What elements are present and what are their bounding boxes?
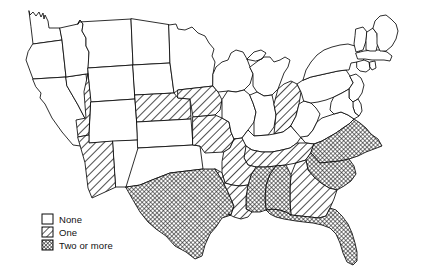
state-WA[interactable]: Washington — None [29, 11, 62, 44]
legend-item-none: None [42, 214, 82, 225]
state-OR[interactable]: Oregon — None [26, 40, 66, 79]
state-MN[interactable]: Minnesota — None [169, 24, 215, 93]
state-AZ[interactable]: Arizona — One [78, 135, 116, 198]
legend-label-one: One [59, 227, 77, 238]
legend-label-none: None [59, 214, 82, 225]
map-container: Washington — None Oregon — None Californ… [0, 0, 425, 272]
states-layer: Washington — None Oregon — None Californ… [26, 11, 398, 265]
map-legend: None One Two or more [42, 214, 113, 251]
state-WY[interactable]: Wyoming — None [88, 65, 135, 102]
state-VT[interactable]: Vermont — None [354, 27, 367, 52]
state-RI[interactable]: Rhode Island — None [370, 61, 376, 70]
legend-label-two-or-more: Two or more [59, 240, 113, 251]
state-KS[interactable]: Kansas — None [137, 119, 193, 148]
state-MA[interactable]: Massachusetts — None [356, 50, 392, 61]
state-CO[interactable]: Colorado — None [89, 99, 138, 143]
state-WI[interactable]: Wisconsin — None [213, 50, 253, 92]
legend-item-one: One [42, 227, 77, 238]
legend-swatch-none [42, 214, 53, 224]
legend-swatch-two-or-more [42, 240, 53, 250]
legend-item-two-or-more: Two or more [42, 240, 113, 251]
us-choropleth-map: Washington — None Oregon — None Californ… [0, 0, 425, 272]
state-CT[interactable]: Connecticut — None [357, 60, 370, 72]
state-ND[interactable]: North Dakota — None [131, 19, 170, 65]
state-NJ[interactable]: New Jersey — None [349, 74, 364, 102]
state-SD[interactable]: South Dakota — None [133, 63, 174, 95]
legend-swatch-one [42, 227, 53, 237]
